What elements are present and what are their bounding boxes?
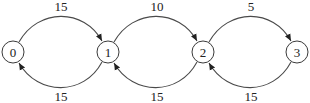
edge-label-1-0: 15	[55, 89, 68, 103]
node-0: 0	[2, 41, 24, 63]
edge-1-to-2: 10	[114, 0, 197, 42]
node-label-2: 2	[200, 45, 207, 60]
edge-label-2-3: 5	[248, 0, 255, 14]
node-2: 2	[192, 41, 214, 63]
edge-2-to-3: 5	[209, 0, 291, 42]
edge-3-to-2: 15	[209, 62, 291, 103]
edge-label-3-2: 15	[245, 89, 258, 103]
edge-label-0-1: 15	[55, 0, 68, 14]
edge-label-1-2: 10	[151, 0, 164, 14]
state-diagram: 15 10 5 15 15 15 0 1 2 3	[0, 0, 310, 103]
node-label-1: 1	[105, 45, 112, 60]
edge-2-to-1: 15	[114, 62, 197, 103]
edge-0-to-1: 15	[19, 0, 102, 42]
edge-label-2-1: 15	[151, 89, 164, 103]
node-3: 3	[286, 41, 308, 63]
node-label-3: 3	[294, 45, 301, 60]
node-label-0: 0	[10, 45, 17, 60]
edge-1-to-0: 15	[19, 62, 102, 103]
node-1: 1	[97, 41, 119, 63]
